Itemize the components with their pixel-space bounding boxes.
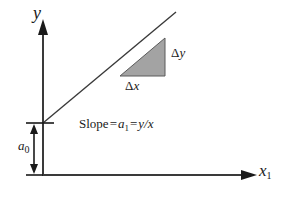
x-axis-label-text: x <box>259 161 267 180</box>
intercept-arrow-head-down <box>30 164 38 174</box>
intercept-arrow-head-up <box>30 124 38 134</box>
intercept-label: a0 <box>18 139 30 152</box>
x-axis-label: x1 <box>259 162 272 179</box>
slope-equation: Slope=a1=y/x <box>79 117 153 130</box>
y-axis-label: y <box>33 4 41 22</box>
slope-equation-coefficient-subscript: 1 <box>124 123 129 133</box>
delta-y-variable: y <box>179 45 185 60</box>
intercept-label-subscript: 0 <box>25 144 30 155</box>
delta-y-label: Δy <box>171 46 185 59</box>
slope-triangle <box>120 38 165 76</box>
slope-equation-ratio: y/x <box>138 116 153 131</box>
intercept-label-text: a <box>18 138 25 153</box>
delta-x-label: Δx <box>125 79 139 92</box>
slope-equation-equals-second: = <box>130 116 137 131</box>
slope-equation-term: Slope <box>79 116 109 131</box>
x-axis-label-subscript: 1 <box>267 170 272 181</box>
slope-equation-equals-first: = <box>110 116 117 131</box>
slope-diagram: y x1 Δy Δx a0 Slope=a1=y/x <box>0 0 292 201</box>
x-axis-arrowhead <box>241 170 257 180</box>
diagram-canvas <box>0 0 292 201</box>
delta-x-variable: x <box>133 78 139 93</box>
